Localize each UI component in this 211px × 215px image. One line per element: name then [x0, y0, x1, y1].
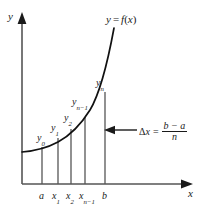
abscissa-label-x2: x2 — [66, 191, 74, 204]
ordinate-label-yn: yn — [96, 78, 104, 91]
abscissa-label-xn-1: xn−1 — [79, 191, 95, 204]
abscissa-sub-xn-1: n−1 — [83, 198, 94, 205]
ordinate-label-yn-1: yn−1 — [72, 97, 88, 110]
x-axis — [22, 180, 193, 189]
delta-denominator: n — [162, 131, 188, 142]
abscissa-sub-x2: 2 — [70, 198, 73, 205]
ordinate-label-y1: y1 — [51, 123, 59, 136]
diagram-canvas — [0, 0, 211, 215]
abscissa-label-a: a — [39, 191, 44, 204]
delta-fraction: b − a n — [162, 121, 188, 142]
ordinate-sub-yn-1: n−1 — [76, 104, 87, 111]
ordinate-sub-y0: 0 — [41, 140, 44, 147]
curve-eq-equals: = — [111, 13, 121, 25]
ordinate-sub-yn: n — [100, 85, 103, 92]
abscissa-sub-x1: 1 — [56, 198, 59, 205]
y-axis — [18, 12, 27, 184]
delta-x-pointer — [104, 126, 137, 134]
x-axis-label: x — [188, 188, 193, 199]
curve-eq-close-paren: ) — [133, 13, 137, 25]
delta-x-formula: Δx= b − a n — [139, 122, 187, 143]
y-axis-label: y — [8, 11, 13, 22]
abscissa-label-b: b — [102, 191, 107, 204]
ordinate-sub-y2: 2 — [68, 120, 71, 127]
abscissa-label-x1: x1 — [52, 191, 60, 204]
curve-equation-label: y=f(x) — [106, 14, 136, 25]
ordinate-sub-y1: 1 — [55, 130, 58, 137]
ordinate-label-y2: y2 — [64, 113, 72, 126]
delta-numerator: b − a — [162, 121, 188, 131]
abscissa-base-b: b — [102, 190, 107, 201]
riemann-sum-diagram: y x y=f(x) y0 y1 y2 yn−1 yn a x1 x2 xn−1… — [0, 0, 211, 215]
ordinate-label-y0: y0 — [37, 133, 45, 146]
abscissa-base-a: a — [39, 190, 44, 201]
delta-equals: = — [150, 126, 162, 137]
